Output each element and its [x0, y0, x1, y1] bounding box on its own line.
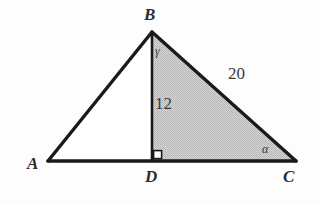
vertex-label-B: B: [144, 6, 155, 23]
altitude-length-label: 12: [155, 95, 172, 112]
hypotenuse-length-label: 20: [228, 65, 245, 82]
vertex-label-D: D: [145, 168, 157, 185]
geometry-figure: A B C D 12 20 γ α: [0, 0, 321, 204]
angle-label-alpha: α: [262, 143, 268, 155]
vertex-label-A: A: [27, 155, 38, 172]
vertex-label-C: C: [283, 168, 294, 185]
right-angle-marker-icon: [154, 151, 162, 159]
angle-label-gamma: γ: [155, 45, 160, 57]
